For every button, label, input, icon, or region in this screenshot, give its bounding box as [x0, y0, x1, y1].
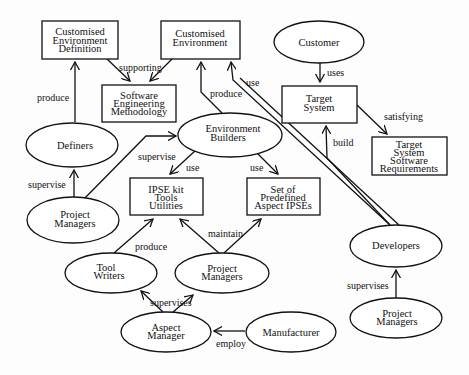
svg-text:Definition: Definition	[58, 43, 102, 54]
edge-label-use-dev: use	[246, 77, 260, 88]
edge-label-supervise-eb: supervise	[138, 151, 176, 162]
node-customised-environment: Customised Environment	[161, 21, 240, 59]
svg-text:Utilities: Utilities	[149, 200, 183, 211]
node-definers: Definers	[26, 123, 118, 167]
node-project-managers-middle: Project Managers	[175, 253, 269, 293]
node-developers: Developers	[350, 225, 442, 267]
edge-label-produce-eb: produce	[210, 88, 243, 99]
edge-label-uses: uses	[327, 67, 344, 78]
edge-label-produce-definers: produce	[37, 92, 70, 103]
edge-label-supervise-definers: supervise	[28, 179, 66, 190]
svg-text:Managers: Managers	[54, 218, 95, 229]
svg-text:Writers: Writers	[93, 270, 124, 281]
edge-label-supporting: supporting	[119, 62, 162, 73]
svg-text:Builders: Builders	[210, 132, 246, 143]
edge-label-use-spa: use	[250, 162, 264, 173]
node-environment-builders: Environment Builders	[178, 113, 282, 157]
svg-text:Methodology: Methodology	[111, 106, 168, 117]
node-target-system-software-requirements: Target System Software Requirements	[372, 137, 447, 175]
svg-text:Environment: Environment	[173, 37, 228, 48]
node-customer: Customer	[274, 21, 364, 63]
edge-label-use-ipse: use	[186, 162, 200, 173]
svg-text:Definers: Definers	[57, 140, 93, 151]
node-project-managers-right: Project Managers	[350, 298, 442, 338]
node-ipse-kit-tools-utilities: IPSE kit Tools Utilities	[130, 178, 203, 215]
diagram-canvas: supporting produce produce use uses sati…	[0, 0, 469, 375]
node-target-system: Target System	[282, 86, 357, 123]
svg-text:Managers: Managers	[376, 316, 417, 327]
edge-label-produce-tw: produce	[135, 241, 168, 252]
svg-text:Managers: Managers	[201, 271, 242, 282]
svg-text:Developers: Developers	[372, 240, 420, 251]
node-manufacturer: Manufacturer	[246, 312, 336, 352]
svg-text:Customer: Customer	[299, 37, 340, 48]
node-tool-writers: Tool Writers	[65, 253, 157, 293]
edge-ts-tssr	[357, 105, 387, 134]
node-customised-environment-definition: Customised Environment Definition	[42, 21, 118, 59]
svg-text:Requirements: Requirements	[380, 163, 438, 174]
svg-text:Manufacturer: Manufacturer	[262, 327, 320, 338]
svg-text:System: System	[304, 102, 335, 113]
node-software-engineering-methodology: Software Engineering Methodology	[102, 85, 176, 122]
svg-text:Aspect IPSEs: Aspect IPSEs	[254, 200, 311, 211]
node-project-managers-left: Project Managers	[27, 197, 119, 243]
edge-label-supervises-am: supervises	[150, 297, 192, 308]
node-aspect-manager: Aspect Manager	[121, 312, 211, 352]
edge-label-maintain: maintain	[208, 228, 243, 239]
edge-label-supervises-dev: supervises	[347, 280, 389, 291]
nodes: Customised Environment Definition Custom…	[26, 21, 447, 352]
svg-text:Manager: Manager	[147, 330, 185, 341]
edge-label-employ: employ	[216, 338, 246, 349]
edge-label-build: build	[333, 137, 354, 148]
node-set-of-predefined-aspect-ipses: Set of Predefined Aspect IPSEs	[247, 178, 320, 215]
edge-label-satisfying: satisfying	[384, 111, 423, 122]
